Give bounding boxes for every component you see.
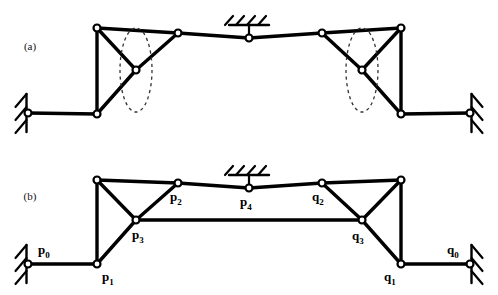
link-right-coupler-diagonal [322, 33, 362, 70]
joint-p1 [94, 261, 101, 268]
panel-b-joint-labels: p0p1p3p2p4q2q3q1q0 [38, 189, 459, 287]
coupler-left-joint [133, 67, 140, 74]
link-left-coupler-diagonal [136, 33, 178, 70]
left-top-joint [175, 30, 182, 37]
link-right-lower-diagonal [362, 70, 401, 114]
joint-8 [398, 177, 405, 184]
coupler-right-joint [359, 67, 366, 74]
link-p1-p3 [97, 220, 136, 264]
joint-label-q1: q1 [384, 269, 396, 287]
link-upperright-q3 [362, 180, 401, 220]
link-ground-left [28, 113, 97, 114]
panel-a-tag: (a) [24, 40, 37, 53]
link-right-upper-diagonal [362, 28, 401, 70]
upper-right-joint [398, 25, 405, 32]
lower-right-joint [398, 111, 405, 118]
joint-label-p3: p3 [132, 227, 144, 245]
link-q2-q3 [322, 183, 362, 220]
joint-label-q3: q3 [352, 228, 364, 246]
panel-a-joints [25, 25, 474, 118]
joint-p2 [175, 180, 182, 187]
link-left-lower-diagonal [97, 70, 136, 114]
link-upperleft-p3 [97, 180, 136, 220]
link-left-upper-diagonal [97, 28, 136, 70]
joint-q3 [359, 217, 366, 224]
joint-label-p2: p2 [170, 189, 182, 207]
lower-left-joint [94, 111, 101, 118]
panel-a: (a) [16, 16, 483, 133]
joint-q1 [398, 261, 405, 268]
joint-label-p0: p0 [38, 242, 50, 260]
joint-p3 [133, 217, 140, 224]
link-left-top-bar [97, 28, 178, 33]
joint-q2 [319, 180, 326, 187]
link-center-left-bar [178, 33, 249, 38]
panel-b-links [28, 180, 470, 264]
link-q1-q3 [362, 220, 401, 264]
joint-p4 [246, 185, 253, 192]
right-top-joint [319, 30, 326, 37]
panel-b-joints [25, 177, 474, 268]
panel-b-tag: (b) [24, 190, 37, 203]
link-right-top-bar [322, 28, 401, 33]
joint-label-q0: q0 [447, 242, 459, 260]
joint-label-q2: q2 [312, 189, 324, 207]
link-center-right-bar [249, 33, 322, 38]
upper-left-joint [94, 25, 101, 32]
link-upperleft-p2 [97, 180, 178, 183]
joint-label-p4: p4 [240, 194, 252, 212]
link-q2-upperright [322, 180, 401, 183]
joint-q0 [467, 261, 474, 268]
center-ground-joint [246, 35, 253, 42]
link-p4-q2 [249, 183, 322, 188]
joint-label-p1: p1 [102, 269, 114, 287]
link-ground-right [401, 113, 470, 114]
ground-left-pivot [25, 110, 32, 117]
ground-right-pivot [467, 110, 474, 117]
linkage-diagram: (a) p0p1p3p2p4q2q3q1q0 (b) [0, 0, 498, 295]
joint-2 [94, 177, 101, 184]
joint-p0 [25, 261, 32, 268]
figure-container: (a) p0p1p3p2p4q2q3q1q0 (b) [0, 0, 498, 295]
panel-b: p0p1p3p2p4q2q3q1q0 (b) [16, 166, 483, 287]
link-p2-p4 [178, 183, 249, 188]
